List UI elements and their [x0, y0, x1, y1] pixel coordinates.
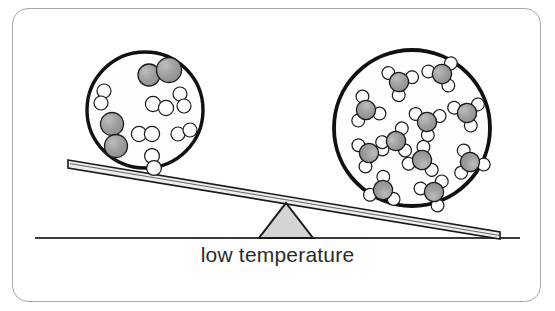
right-sample-circle — [334, 50, 492, 214]
left-sample-circle — [87, 52, 203, 175]
molecule-diatomic-white — [145, 149, 162, 176]
fulcrum-triangle — [259, 203, 313, 238]
caption-low-temperature: low temperature — [0, 243, 555, 267]
figure-stage: low temperature — [0, 0, 555, 311]
